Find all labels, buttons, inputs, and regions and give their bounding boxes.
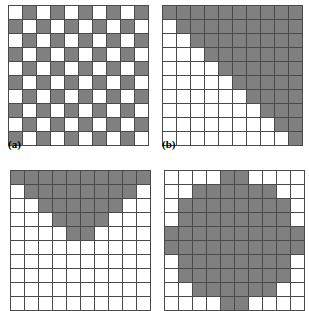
pixel-cell <box>163 34 176 47</box>
pixel-cell <box>219 6 232 19</box>
pixel-cell <box>207 297 220 310</box>
pixel-cell <box>247 118 260 131</box>
pixel-cell <box>219 104 232 117</box>
pixel-cell <box>51 90 64 103</box>
pixel-cell <box>79 20 92 33</box>
pixel-cell <box>137 227 150 240</box>
pixel-cell <box>11 227 24 240</box>
pixel-cell <box>25 241 38 254</box>
pixel-cell <box>177 48 190 61</box>
pixel-cell <box>219 34 232 47</box>
pixel-cell <box>123 227 136 240</box>
pixel-cell <box>121 118 134 131</box>
pixel-cell <box>247 34 260 47</box>
pixel-cell <box>25 213 38 226</box>
pixel-cell <box>9 34 22 47</box>
pixel-cell <box>37 48 50 61</box>
pixel-cell <box>233 62 246 75</box>
pixel-cell <box>65 6 78 19</box>
pixel-cell <box>291 213 304 226</box>
pixel-cell <box>137 185 150 198</box>
pixel-cell <box>25 185 38 198</box>
pixel-cell <box>275 104 288 117</box>
pixel-cell <box>193 213 206 226</box>
pixel-cell <box>179 241 192 254</box>
panel-c <box>10 170 151 311</box>
pixel-cell <box>179 283 192 296</box>
pixel-cell <box>207 213 220 226</box>
pixel-cell <box>261 20 274 33</box>
pixel-cell <box>221 255 234 268</box>
pixel-cell <box>23 20 36 33</box>
pixel-cell <box>25 269 38 282</box>
pixel-cell <box>233 34 246 47</box>
pixel-cell <box>291 283 304 296</box>
pixel-cell <box>263 297 276 310</box>
pixel-cell <box>11 269 24 282</box>
pixel-cell <box>79 48 92 61</box>
pixel-cell <box>11 255 24 268</box>
pixel-cell <box>51 62 64 75</box>
pixel-cell <box>109 185 122 198</box>
pixel-cell <box>163 90 176 103</box>
pixel-cell <box>249 283 262 296</box>
pixel-cell <box>39 199 52 212</box>
pixel-cell <box>135 34 148 47</box>
pixel-cell <box>261 6 274 19</box>
pixel-cell <box>93 76 106 89</box>
pixel-cell <box>165 283 178 296</box>
pixel-cell <box>53 199 66 212</box>
pixel-cell <box>261 62 274 75</box>
pixel-cell <box>107 34 120 47</box>
pixel-cell <box>177 76 190 89</box>
pixel-cell <box>263 171 276 184</box>
pixel-cell <box>207 269 220 282</box>
pixel-cell <box>109 227 122 240</box>
pixel-cell <box>109 213 122 226</box>
pixel-cell <box>235 283 248 296</box>
pixel-cell <box>79 6 92 19</box>
pixel-cell <box>67 241 80 254</box>
pixel-cell <box>65 76 78 89</box>
pixel-cell <box>247 20 260 33</box>
pixel-cell <box>177 62 190 75</box>
pixel-cell <box>249 255 262 268</box>
pixel-cell <box>219 76 232 89</box>
pixel-cell <box>263 269 276 282</box>
pixel-cell <box>135 20 148 33</box>
pixel-cell <box>39 241 52 254</box>
pixel-cell <box>179 213 192 226</box>
pixel-cell <box>107 6 120 19</box>
pixel-cell <box>163 6 176 19</box>
pixel-cell <box>123 297 136 310</box>
pixel-cell <box>51 132 64 145</box>
pixel-cell <box>137 199 150 212</box>
pixel-cell <box>123 213 136 226</box>
pixel-cell <box>191 132 204 145</box>
pixel-cell <box>65 104 78 117</box>
pixel-cell <box>221 171 234 184</box>
pixel-cell <box>39 283 52 296</box>
pixel-cell <box>107 132 120 145</box>
pixel-cell <box>289 34 302 47</box>
pixel-cell <box>289 62 302 75</box>
pixel-cell <box>93 20 106 33</box>
pixel-cell <box>135 104 148 117</box>
pixel-cell <box>219 20 232 33</box>
pixel-cell <box>249 185 262 198</box>
pixel-cell <box>11 185 24 198</box>
pixel-cell <box>289 48 302 61</box>
pixel-cell <box>53 171 66 184</box>
pixel-cell <box>67 227 80 240</box>
pixel-cell <box>235 171 248 184</box>
pixel-cell <box>23 48 36 61</box>
pixel-cell <box>37 34 50 47</box>
pixel-cell <box>107 48 120 61</box>
pixel-grid-a <box>8 5 149 146</box>
pixel-cell <box>65 34 78 47</box>
pixel-cell <box>193 297 206 310</box>
pixel-cell <box>107 62 120 75</box>
pixel-cell <box>79 104 92 117</box>
pixel-cell <box>121 62 134 75</box>
pixel-cell <box>247 62 260 75</box>
